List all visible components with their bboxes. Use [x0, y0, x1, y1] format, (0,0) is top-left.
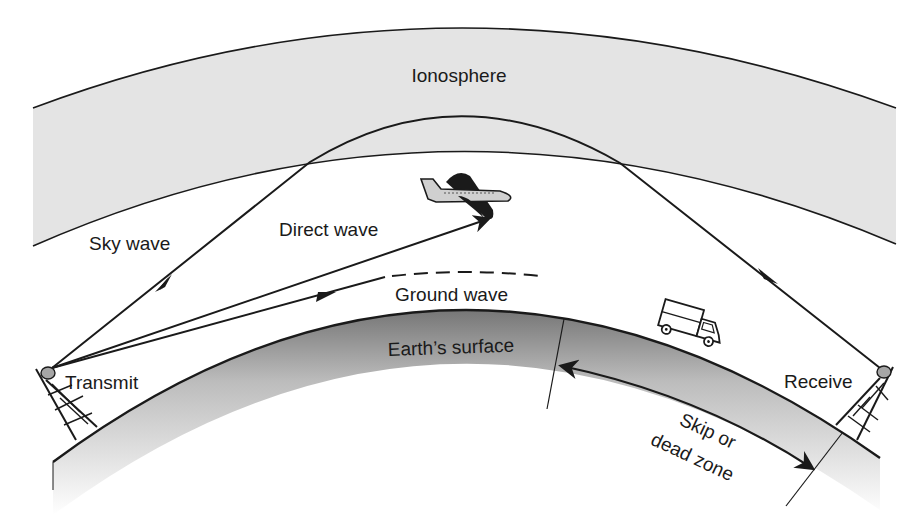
sky-wave-label: Sky wave [89, 233, 170, 254]
receive-label: Receive [784, 371, 853, 392]
earth-surface-label: Earth’s surface [387, 335, 514, 360]
ionosphere-band [33, 28, 896, 246]
ground-wave-arrow-icon [316, 292, 336, 302]
ionosphere-label: Ionosphere [411, 65, 506, 86]
sky-wave-arrow-down-icon [758, 268, 778, 284]
truck-icon [656, 299, 727, 349]
airplane-icon [421, 173, 511, 219]
ground-wave-label: Ground wave [395, 284, 508, 305]
radio-propagation-diagram: Ionosphere Earth’s surface Sky wave Dire… [0, 0, 922, 528]
direct-wave-label: Direct wave [279, 219, 378, 240]
transmit-label: Transmit [65, 372, 139, 393]
